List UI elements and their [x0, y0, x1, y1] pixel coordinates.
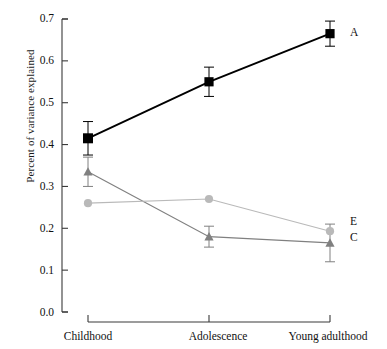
- series-label-a: A: [350, 26, 358, 38]
- data-point-marker: [83, 167, 92, 175]
- data-point-marker: [83, 133, 93, 143]
- y-tick-label-0.5: 0.5: [20, 96, 54, 108]
- y-axis-title: Percent of variance explained: [24, 26, 36, 206]
- data-point-marker: [205, 195, 213, 203]
- chart-figure: Percent of variance explained 0.7 0.6 0.…: [0, 0, 387, 349]
- data-series-layer: [83, 21, 335, 262]
- x-tick-label-childhood: Childhood: [28, 330, 148, 342]
- x-axis-bracket: [88, 315, 330, 322]
- series-label-c: C: [350, 231, 358, 243]
- y-tick-label-0.4: 0.4: [20, 138, 54, 150]
- data-point-marker: [325, 29, 334, 38]
- y-tick-label-0.3: 0.3: [20, 180, 54, 192]
- plot-area: [0, 0, 387, 349]
- y-tick-label-0.0: 0.0: [20, 306, 54, 318]
- axis-lines: [62, 19, 330, 322]
- y-tick-label-0.6: 0.6: [20, 54, 54, 66]
- data-point-marker: [204, 77, 213, 86]
- data-point-marker: [84, 199, 92, 207]
- series-c: [83, 157, 335, 262]
- y-tick-label-0.1: 0.1: [20, 264, 54, 276]
- series-label-e: E: [350, 215, 357, 227]
- y-tick-label-0.7: 0.7: [20, 12, 54, 24]
- y-axis-ticks: [62, 19, 68, 312]
- series-a: [83, 21, 335, 155]
- data-point-marker: [326, 227, 334, 235]
- x-tick-label-adolescence: Adolescence: [158, 330, 278, 342]
- y-tick-label-0.2: 0.2: [20, 222, 54, 234]
- x-tick-label-young-adulthood: Young adulthood: [268, 330, 387, 342]
